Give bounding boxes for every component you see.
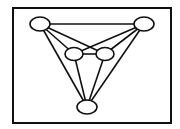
edges-layer xyxy=(40,24,144,107)
edge-top-left-bottom xyxy=(40,24,87,107)
node-top-left xyxy=(30,17,50,31)
edge-center-left-bottom xyxy=(74,54,87,107)
edge-center-right-bottom xyxy=(87,54,105,107)
node-bottom xyxy=(77,100,97,114)
node-center-left xyxy=(65,48,83,61)
graph-diagram xyxy=(0,0,180,129)
node-center-right xyxy=(96,48,114,61)
node-top-right xyxy=(134,17,154,31)
